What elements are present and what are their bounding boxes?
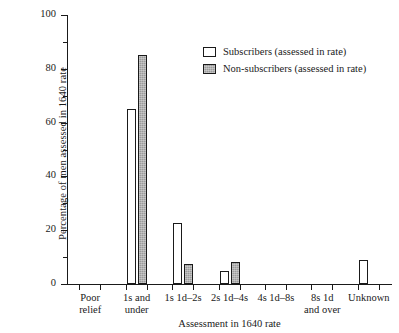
- x-axis-line: [67, 284, 392, 285]
- bar-subscribers: [359, 260, 368, 284]
- legend-item-non-subscribers: Non-subscribers (assessed in rate): [203, 60, 366, 77]
- x-tick: [240, 285, 241, 290]
- bar-subscribers: [127, 109, 136, 284]
- bar-chart-figure: Percentage of men assessed in 1640 rate …: [0, 0, 399, 333]
- x-tick: [193, 285, 194, 290]
- x-tick: [379, 285, 380, 290]
- x-tick: [265, 285, 266, 290]
- x-tick: [172, 285, 173, 290]
- x-tick: [79, 285, 80, 290]
- x-tick: [358, 285, 359, 290]
- x-category-label-line: and over: [276, 304, 368, 316]
- x-tick: [147, 285, 148, 290]
- x-tick: [126, 285, 127, 290]
- legend-label: Non-subscribers (assessed in rate): [223, 63, 366, 74]
- x-tick: [219, 285, 220, 290]
- x-tick: [311, 285, 312, 290]
- x-tick: [100, 285, 101, 290]
- x-axis-title: Assessment in 1640 rate: [67, 318, 392, 329]
- x-category-label: Unknown: [323, 292, 399, 304]
- x-category-label-line: Unknown: [323, 292, 399, 304]
- white-square-icon: [203, 47, 216, 57]
- x-tick: [332, 285, 333, 290]
- legend-item-subscribers: Subscribers (assessed in rate): [203, 43, 366, 60]
- x-category-label-line: under: [91, 304, 183, 316]
- legend-label: Subscribers (assessed in rate): [223, 46, 346, 57]
- gray-square-icon: [203, 64, 216, 74]
- chart-legend: Subscribers (assessed in rate) Non-subsc…: [203, 43, 366, 77]
- bar-subscribers: [220, 271, 229, 284]
- x-tick: [286, 285, 287, 290]
- bar-subscribers: [173, 223, 182, 284]
